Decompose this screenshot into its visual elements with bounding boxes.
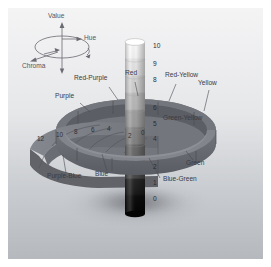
hue-label-blue-green: Blue-Green [163,176,197,183]
hue-label-red-purple: Red-Purple [74,75,107,82]
legend-chroma-label: Chroma [22,63,45,70]
value-tick-4: 4 [153,136,157,143]
scene-graphic [8,8,263,259]
value-tick-2: 2 [153,164,157,171]
value-tick-5: 5 [153,121,157,128]
hue-label-purple-blue: Purple-Blue [47,173,81,180]
hue-label-green-yellow: Green-Yellow [163,115,202,122]
hue-label-yellow: Yellow [198,80,217,87]
value-tick-10: 10 [153,43,160,50]
chroma-tick-4: 4 [107,126,111,132]
chroma-tick-0: 0 [141,130,145,136]
chroma-tick-10: 10 [56,132,63,138]
chroma-tick-6: 6 [91,127,95,133]
hue-label-blue: Blue [95,171,108,178]
hue-label-green: Green [186,160,204,167]
munsell-diagram-figure: Value Hue Chroma Red-Purple Red Red-Yell… [0,0,271,267]
legend-value-label: Value [48,13,64,20]
value-tick-0: 0 [153,196,157,203]
chroma-tick-12: 12 [37,136,44,142]
value-tick-6: 6 [153,105,157,112]
hue-label-purple: Purple [55,93,74,100]
legend-hue-label: Hue [84,35,96,42]
value-tick-1: 1 [153,180,157,187]
value-tick-8: 8 [153,77,157,84]
chroma-tick-2: 2 [128,133,132,139]
hue-label-red: Red [125,70,137,77]
value-cylinder [125,39,145,218]
chroma-tick-8: 8 [74,129,78,135]
figure-canvas: Value Hue Chroma Red-Purple Red Red-Yell… [8,8,263,259]
hue-label-red-yellow: Red-Yellow [165,72,198,79]
value-tick-9: 9 [153,61,157,68]
